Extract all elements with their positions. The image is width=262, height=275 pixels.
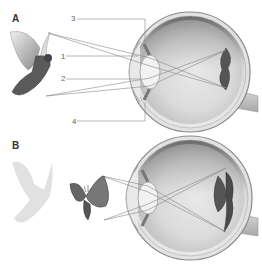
panel-b (12, 136, 258, 260)
lens-a (140, 55, 160, 89)
panel-a (10, 12, 258, 132)
faded-dove-silhouette (12, 162, 53, 223)
eye-diagram (0, 0, 262, 275)
butterfly-object (70, 176, 109, 220)
cornea-a (129, 42, 140, 102)
dove-object (10, 31, 52, 95)
